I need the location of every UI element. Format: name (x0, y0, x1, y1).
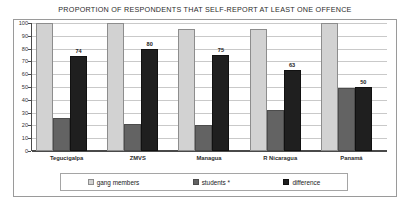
bar-gang (250, 29, 267, 151)
bar-difference: 75 (212, 55, 229, 151)
bar-difference: 63 (284, 70, 301, 151)
bar-value-label: 63 (289, 62, 295, 68)
bar-students (195, 125, 212, 151)
bar-value-label: 50 (360, 79, 366, 85)
bar-value-label: 80 (147, 41, 153, 47)
legend-item: difference (283, 179, 320, 186)
x-axis-category-label: Panamá (316, 155, 387, 167)
bar-gang (321, 23, 338, 151)
x-axis-category-label: Tegucigalpa (31, 155, 102, 167)
legend-label: gang members (97, 179, 140, 186)
x-axis-category-label: R Nicaragua (245, 155, 316, 167)
bar-group: 50 (316, 23, 387, 151)
x-axis-category-label: Managua (173, 155, 244, 167)
legend-swatch-difference (283, 179, 289, 185)
chart-legend: gang membersstudents *difference (60, 173, 348, 191)
bar-value-label: 74 (75, 48, 81, 54)
legend-item: gang members (88, 179, 140, 186)
bar-students (267, 110, 284, 151)
bar-difference: 50 (355, 87, 372, 151)
bar-group: 75 (173, 23, 244, 151)
y-axis-tick-mark (28, 151, 31, 152)
bar-gang (107, 23, 124, 151)
bar-gang (36, 23, 53, 151)
x-axis-category-label: ZMVS (102, 155, 173, 167)
x-axis-labels: TegucigalpaZMVSManaguaR NicaraguaPanamá (31, 155, 387, 167)
bar-group: 63 (245, 23, 316, 151)
bar-group: 80 (102, 23, 173, 151)
bar-students (53, 118, 70, 151)
bar-students (338, 88, 355, 151)
bar-difference: 74 (70, 56, 87, 151)
legend-swatch-students (193, 179, 199, 185)
legend-label: students * (202, 179, 230, 186)
y-axis-tick-label: 100 (19, 20, 28, 26)
bar-students (124, 124, 141, 151)
y-axis: 1009080706050403020100 (14, 18, 30, 156)
legend-swatch-gang (88, 179, 94, 185)
legend-item: students * (193, 179, 230, 186)
bar-value-label: 75 (218, 47, 224, 53)
bar-difference: 80 (141, 49, 158, 151)
chart-title: PROPORTION OF RESPONDENTS THAT SELF-REPO… (0, 5, 410, 14)
legend-label: difference (292, 179, 320, 186)
bar-gang (178, 29, 195, 151)
bars-layer: 7480756350 (31, 23, 387, 151)
bar-group: 74 (31, 23, 102, 151)
chart-figure: PROPORTION OF RESPONDENTS THAT SELF-REPO… (0, 0, 410, 206)
